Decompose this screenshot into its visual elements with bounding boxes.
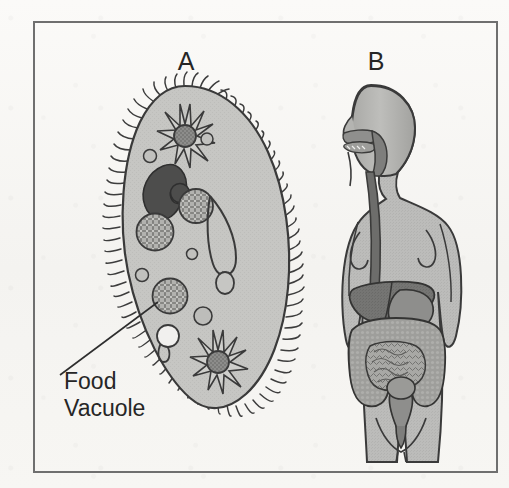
figure-root: A B	[0, 0, 509, 488]
forming-food-vacuole	[216, 272, 234, 294]
biology-figure-svg: A B	[0, 0, 509, 488]
panel-label-a: A	[178, 47, 195, 75]
food-vacuole	[153, 279, 188, 314]
vesicle	[194, 307, 212, 325]
neck-line	[348, 152, 351, 186]
food-vacuole	[137, 214, 174, 251]
vesicle	[201, 133, 213, 145]
panel-label-b: B	[368, 47, 385, 75]
vesicle	[144, 150, 157, 163]
food-vacuole-leader-line	[60, 302, 158, 375]
food-vacuole-label-line-1: Food	[64, 368, 116, 394]
panel-b-human-digestive-system	[342, 85, 461, 462]
pelvic-mass	[387, 377, 415, 399]
expelled-vacuole	[157, 325, 179, 347]
vesicle	[136, 269, 149, 282]
panel-a-paramecium	[60, 72, 304, 416]
food-vacuole-label-line-2: Vacuole	[64, 395, 145, 421]
vesicle	[187, 249, 198, 260]
